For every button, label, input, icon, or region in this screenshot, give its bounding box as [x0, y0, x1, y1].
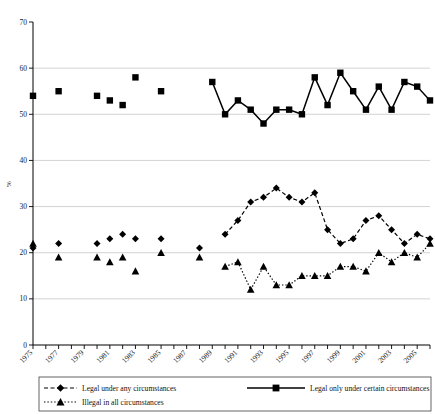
data-point-diamond	[106, 235, 113, 242]
x-tick-label: 1997	[299, 348, 316, 365]
data-point-square	[350, 88, 356, 94]
data-point-diamond	[132, 235, 139, 242]
data-point-triangle	[426, 240, 434, 247]
series-2	[30, 70, 433, 127]
data-point-square	[376, 83, 382, 89]
data-point-diamond	[247, 198, 254, 205]
data-point-square	[235, 97, 241, 103]
data-point-square	[286, 106, 292, 112]
data-point-triangle	[221, 263, 229, 270]
x-tick-label: 2005	[402, 348, 419, 365]
data-point-triangle	[388, 258, 396, 265]
data-point-square	[273, 106, 279, 112]
data-point-triangle	[106, 258, 114, 265]
data-point-triangle	[196, 254, 204, 261]
line-chart: 010203040506070 197519771979198119831985…	[0, 0, 435, 414]
data-point-diamond	[94, 240, 101, 247]
data-point-diamond	[388, 226, 395, 233]
data-point-square	[119, 102, 125, 108]
y-axis-tick-labels: 010203040506070	[20, 18, 28, 350]
y-tick-label: 20	[20, 248, 28, 257]
data-point-diamond	[298, 198, 305, 205]
data-point-square	[158, 88, 164, 94]
data-point-diamond	[362, 217, 369, 224]
x-tick-label: 1979	[69, 348, 86, 365]
x-tick-label: 1975	[17, 348, 34, 365]
series-3	[29, 240, 434, 293]
data-point-square	[248, 106, 254, 112]
data-point-triangle	[260, 263, 268, 270]
x-tick-label: 1991	[222, 348, 239, 365]
chart-legend: Legal under any circumstancesLegal only …	[39, 377, 431, 411]
y-tick-label: 10	[20, 294, 28, 303]
data-point-triangle	[29, 240, 37, 247]
axes	[33, 22, 430, 345]
data-point-square	[414, 83, 420, 89]
data-point-square	[94, 93, 100, 99]
x-tick-label: 1985	[146, 348, 163, 365]
x-tick-label: 1977	[43, 348, 60, 365]
data-point-diamond	[401, 240, 408, 247]
series-1	[30, 185, 434, 252]
series-line	[225, 188, 430, 243]
y-tick-label: 30	[20, 202, 28, 211]
data-series-layer	[29, 70, 434, 293]
legend-label: Legal under any circumstances	[82, 384, 176, 393]
data-point-diamond	[158, 235, 165, 242]
data-point-diamond	[196, 245, 203, 252]
y-tick-label: 50	[20, 110, 28, 119]
data-point-triangle	[337, 263, 345, 270]
x-tick-label: 1999	[325, 348, 342, 365]
data-point-square	[401, 79, 407, 85]
data-point-triangle	[55, 254, 63, 261]
x-tick-label: 2001	[350, 348, 367, 365]
legend-label: Illegal in all circumstances	[82, 398, 164, 407]
data-point-diamond	[119, 231, 126, 238]
data-point-square	[55, 88, 61, 94]
y-tick-label: 60	[20, 64, 28, 73]
data-point-square	[132, 74, 138, 80]
x-tick-label: 1995	[274, 348, 291, 365]
data-point-triangle	[298, 272, 306, 279]
y-axis-title-text: %	[5, 181, 13, 187]
data-point-square	[222, 111, 228, 117]
data-point-diamond	[260, 194, 267, 201]
data-point-triangle	[349, 263, 357, 270]
data-point-triangle	[132, 267, 140, 274]
legend-label: Legal only under certain circumstances	[310, 384, 429, 393]
data-point-square	[273, 385, 280, 392]
chart-container: 010203040506070 197519771979198119831985…	[0, 0, 435, 414]
y-axis-title: %	[5, 181, 13, 187]
data-point-square	[427, 97, 433, 103]
data-point-triangle	[413, 254, 421, 261]
data-point-square	[299, 111, 305, 117]
data-point-square	[363, 106, 369, 112]
data-point-triangle	[119, 254, 127, 261]
data-point-diamond	[375, 212, 382, 219]
x-axis-tick-labels: 1975197719791981198319851987198919911993…	[17, 348, 418, 365]
data-point-triangle	[93, 254, 101, 261]
data-point-square	[107, 97, 113, 103]
y-tick-label: 40	[20, 156, 28, 165]
x-tick-label: 1989	[197, 348, 214, 365]
y-tick-label: 70	[20, 18, 28, 27]
x-tick-label: 1983	[120, 348, 137, 365]
data-point-square	[312, 74, 318, 80]
data-point-square	[324, 102, 330, 108]
data-point-triangle	[324, 272, 332, 279]
data-point-triangle	[247, 286, 255, 293]
data-point-square	[30, 93, 36, 99]
y-axis-ticks	[29, 22, 33, 345]
data-point-triangle	[362, 267, 370, 274]
data-point-square	[337, 70, 343, 76]
x-tick-label: 1993	[248, 348, 265, 365]
x-tick-label: 1981	[94, 348, 111, 365]
data-point-square	[209, 79, 215, 85]
data-point-square	[260, 120, 266, 126]
x-tick-label: 2003	[376, 348, 393, 365]
series-line	[225, 243, 430, 289]
data-point-triangle	[234, 258, 242, 265]
series-line	[212, 73, 430, 124]
data-point-square	[388, 106, 394, 112]
data-point-diamond	[55, 240, 62, 247]
